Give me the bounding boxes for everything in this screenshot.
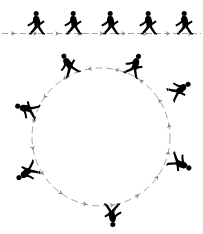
walker-figure <box>121 50 147 79</box>
path-arrowhead <box>100 31 104 36</box>
path-arrowhead <box>156 97 162 103</box>
walking-path-diagram <box>0 0 203 234</box>
walker-figure <box>27 11 45 35</box>
circular-walker-figures <box>12 50 195 227</box>
walker-figure <box>55 50 81 79</box>
path-arrowhead <box>138 78 144 84</box>
walker-figure <box>101 11 119 35</box>
diagram-canvas <box>0 0 203 234</box>
circular-arrowheads <box>30 66 172 208</box>
path-arrowhead <box>58 190 64 196</box>
path-arrowhead <box>61 75 67 81</box>
walker-figure <box>12 97 41 122</box>
path-arrowhead <box>110 202 115 208</box>
walker-figure <box>104 203 122 227</box>
path-arrowhead <box>134 192 140 198</box>
walker-figure <box>139 11 157 35</box>
walker-figure <box>64 11 82 35</box>
linear-walker-figures <box>27 11 193 35</box>
path-arrowhead <box>31 119 37 124</box>
walker-figure <box>165 76 195 104</box>
path-arrowhead <box>154 174 160 180</box>
walker-figure <box>175 11 193 35</box>
circular-path-group <box>30 66 172 208</box>
circular-path-line <box>32 68 170 206</box>
path-arrowhead <box>114 67 119 73</box>
path-arrowhead <box>55 31 59 36</box>
walker-figure <box>166 150 196 178</box>
path-arrowhead <box>42 94 48 100</box>
